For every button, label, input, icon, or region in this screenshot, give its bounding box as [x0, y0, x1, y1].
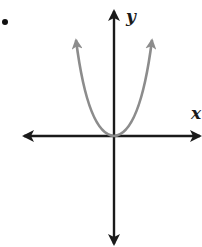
- parabola-graph: y x: [0, 0, 202, 247]
- x-axis-label: x: [191, 105, 201, 122]
- y-axis-label: y: [126, 8, 136, 25]
- list-bullet: [2, 19, 8, 25]
- graph-canvas: [0, 0, 202, 247]
- parabola-left-branch: [76, 40, 114, 136]
- parabola-right-branch: [114, 40, 152, 136]
